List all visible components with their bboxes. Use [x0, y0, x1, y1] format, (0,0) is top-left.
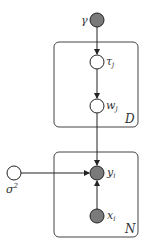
node-w	[90, 99, 104, 113]
label-y: yi	[106, 166, 115, 180]
node-x	[90, 209, 104, 223]
node-tau	[90, 55, 104, 69]
node-sigma2	[7, 166, 21, 180]
node-y	[90, 166, 104, 180]
label-w: wj	[106, 99, 118, 113]
node-gamma	[90, 13, 104, 27]
label-gamma: γ	[81, 14, 88, 27]
label-x: xi	[107, 209, 115, 223]
plate-N-label: N	[124, 222, 136, 236]
plate-D-label: D	[124, 112, 135, 126]
label-tau: τj	[106, 55, 115, 69]
graphical-model-diagram: D N γ τj wj σ2 yi xi	[0, 0, 147, 250]
label-sigma2: σ2	[6, 182, 19, 196]
